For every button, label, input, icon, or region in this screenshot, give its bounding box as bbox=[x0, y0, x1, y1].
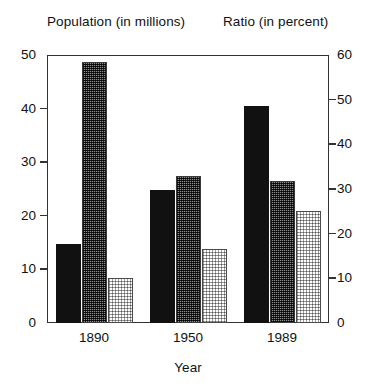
bar-1989-series-gray bbox=[270, 181, 295, 323]
bar-1890-series-gray bbox=[82, 62, 107, 323]
y2-axis-tick-label: 0 bbox=[337, 316, 367, 330]
y-axis-tick-label: 10 bbox=[6, 262, 36, 276]
y-axis-tick-label: 30 bbox=[6, 155, 36, 169]
y-axis-tick-label: 50 bbox=[6, 48, 36, 62]
y2-axis-tick-label: 50 bbox=[337, 93, 367, 107]
y2-axis-tick-label: 60 bbox=[337, 48, 367, 62]
y2-tick-mark bbox=[329, 143, 336, 145]
bar-1950-series-gray bbox=[176, 176, 201, 323]
right-axis-title: Ratio (in percent) bbox=[223, 14, 328, 29]
left-axis-title: Population (in millions) bbox=[47, 14, 185, 29]
bar-1989-series-black bbox=[244, 106, 269, 323]
bar-1890-series-light bbox=[108, 278, 133, 323]
x-axis-title: Year bbox=[0, 360, 376, 375]
y2-tick-mark bbox=[329, 277, 336, 279]
bar-chart: Population (in millions) Ratio (in perce… bbox=[0, 0, 376, 389]
y2-axis-tick-label: 40 bbox=[337, 137, 367, 151]
x-axis-category-label: 1989 bbox=[252, 330, 312, 345]
x-axis-category-label: 1890 bbox=[64, 330, 124, 345]
bar-1989-series-light bbox=[296, 211, 321, 323]
y2-axis-tick-label: 10 bbox=[337, 271, 367, 285]
x-axis-category-label: 1950 bbox=[158, 330, 218, 345]
y-tick-mark bbox=[40, 215, 47, 217]
y-tick-mark bbox=[40, 268, 47, 270]
y2-axis-tick-label: 30 bbox=[337, 182, 367, 196]
y2-tick-mark bbox=[329, 99, 336, 101]
y-axis-tick-label: 0 bbox=[6, 316, 36, 330]
y2-tick-mark bbox=[329, 233, 336, 235]
y2-axis-tick-label: 20 bbox=[337, 227, 367, 241]
bar-1890-series-black bbox=[56, 244, 81, 323]
bar-1950-series-light bbox=[202, 249, 227, 323]
y-tick-mark bbox=[40, 108, 47, 110]
y-tick-mark bbox=[40, 161, 47, 163]
y2-tick-mark bbox=[329, 188, 336, 190]
y-axis-tick-label: 40 bbox=[6, 102, 36, 116]
y-axis-tick-label: 20 bbox=[6, 209, 36, 223]
bar-1950-series-black bbox=[150, 190, 175, 323]
